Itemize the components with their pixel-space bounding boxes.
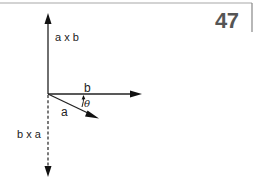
- cross-product-diagram: a x b b a b x a θ: [0, 0, 260, 181]
- vector-axb-arrow: [45, 13, 52, 94]
- label-b-cross-a: b x a: [17, 128, 41, 140]
- vector-bxa-arrow: [45, 95, 52, 177]
- vector-b-arrow: [48, 91, 142, 98]
- label-b: b: [84, 82, 91, 94]
- label-a: a: [61, 106, 68, 118]
- vector-a-arrow: [48, 94, 99, 119]
- label-a-cross-b: a x b: [55, 31, 79, 43]
- label-theta: θ: [84, 98, 90, 110]
